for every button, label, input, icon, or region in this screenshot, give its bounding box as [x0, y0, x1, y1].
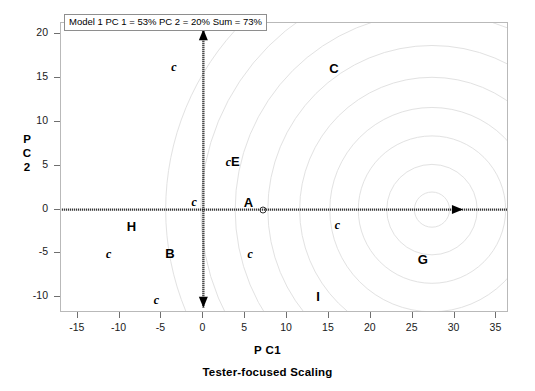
x-axis-tick [495, 312, 496, 318]
model-info-box: Model 1 PC 1 = 53% PC 2 = 20% Sum = 73% [64, 14, 267, 31]
y-axis-tick-label: 15 [14, 70, 48, 82]
plot-area: cccccccEABCGHI [60, 22, 508, 312]
data-point-label: I [316, 289, 320, 304]
y-axis-tick-label: 0 [14, 202, 48, 214]
x-axis-tick [328, 312, 329, 318]
y-axis-title-line: P [18, 132, 36, 146]
x-axis-subtitle: Tester-focused Scaling [0, 366, 535, 378]
data-point-label: c [154, 292, 159, 307]
x-axis-tick-label: -10 [99, 321, 139, 333]
chart-figure: cccccccEABCGHI Model 1 PC 1 = 53% PC 2 =… [0, 0, 535, 391]
y-axis-tick-label: -10 [14, 289, 48, 301]
contour-arc [358, 136, 505, 283]
y-axis-tick [54, 121, 60, 122]
contour-arc [414, 192, 449, 227]
data-point-label: c [335, 217, 340, 232]
y-axis-tick-label: -5 [14, 245, 48, 257]
x-axis-tick-label: 20 [350, 321, 390, 333]
data-point-label: A [244, 194, 253, 209]
y-axis-title-line: 2 [18, 160, 36, 174]
data-point-label: H [127, 219, 136, 234]
data-point-label: c [191, 194, 196, 209]
y-axis-tick [54, 252, 60, 253]
data-point-label: c [106, 247, 111, 262]
y-axis-tick [54, 33, 60, 34]
x-axis-tick-label: 35 [475, 321, 515, 333]
x-axis-tick-label: -15 [57, 321, 97, 333]
y-axis-tick [54, 296, 60, 297]
y-axis-tick [54, 165, 60, 166]
x-axis-tick-label: 10 [266, 321, 306, 333]
x-axis-tick-label: 25 [392, 321, 432, 333]
x-axis-tick [286, 312, 287, 318]
data-point-label: cE [226, 154, 240, 170]
x-axis-tick-label: 0 [182, 321, 222, 333]
x-axis-tick [454, 312, 455, 318]
data-point-label: G [418, 251, 428, 266]
y-axis-tick-label: 10 [14, 114, 48, 126]
contour-arc [201, 23, 508, 312]
contour-arc [330, 107, 508, 311]
x-axis-tick [119, 312, 120, 318]
x-axis-tick [160, 312, 161, 318]
x-axis-tick [412, 312, 413, 318]
y-axis-tick [54, 209, 60, 210]
data-point-label-upper: E [231, 154, 240, 169]
x-axis-tick-label: 5 [224, 321, 264, 333]
x-axis-tick [370, 312, 371, 318]
x-axis-tick [244, 312, 245, 318]
x-axis-tick [77, 312, 78, 318]
contour-lines-group [61, 23, 508, 312]
origin-circle-marker [259, 206, 266, 213]
x-axis-tick-label: -5 [140, 321, 180, 333]
data-point-label: B [165, 246, 174, 261]
y-axis-tick-label: 20 [14, 26, 48, 38]
x-axis-tick [202, 312, 203, 318]
data-point-label: c [248, 247, 253, 262]
contour-arc [387, 164, 477, 254]
y-axis-title: PC2 [18, 132, 36, 174]
y-axis-title-line: C [18, 146, 36, 160]
data-point-label: C [329, 60, 338, 75]
y-axis-tick [54, 77, 60, 78]
data-point-label: c [171, 59, 176, 74]
x-axis-tick-label: 15 [308, 321, 348, 333]
x-axis-tick-label: 30 [434, 321, 474, 333]
x-axis-title: P C1 [0, 344, 535, 356]
